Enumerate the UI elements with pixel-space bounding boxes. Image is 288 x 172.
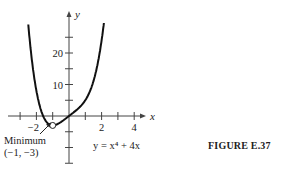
equation-label: y = x⁴ + 4x xyxy=(93,140,140,151)
x-tick-label: 4 xyxy=(132,122,138,133)
annotation-arrow xyxy=(40,125,49,134)
figure-label: FIGURE E.37 xyxy=(208,140,271,151)
minimum-label: Minimum xyxy=(4,135,46,147)
y-tick-label: 10 xyxy=(53,80,64,91)
x-tick-label: 2 xyxy=(99,122,104,133)
minimum-coordinates: (−1, −3) xyxy=(4,147,46,159)
x-axis-arrow-icon xyxy=(140,114,146,119)
function-curve xyxy=(28,23,104,126)
minimum-annotation: Minimum (−1, −3) xyxy=(4,135,46,159)
y-axis-label: y xyxy=(74,8,80,20)
y-tick-label: 20 xyxy=(53,48,64,59)
y-axis-arrow-icon xyxy=(67,11,72,17)
x-tick-label: −2 xyxy=(28,122,39,133)
x-axis-label: x xyxy=(149,110,155,122)
